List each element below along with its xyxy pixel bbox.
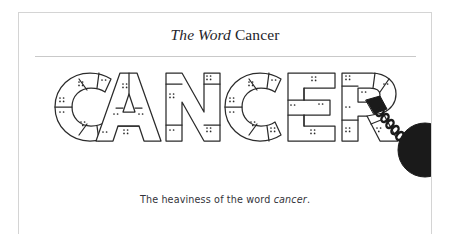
title-roman-word: Cancer bbox=[235, 26, 280, 43]
figure-caption: The heaviness of the word cancer. bbox=[19, 189, 431, 207]
page-title: The Word Cancer bbox=[19, 26, 431, 44]
letter-N bbox=[166, 73, 220, 141]
document-page: The Word Cancer bbox=[0, 0, 452, 223]
cancer-wrecking-ball-illustration bbox=[19, 62, 431, 180]
letter-E bbox=[288, 73, 335, 141]
caption-italic-word: cancer bbox=[274, 194, 307, 205]
title-divider bbox=[35, 56, 416, 57]
letter-C-2 bbox=[225, 73, 281, 141]
caption-text: The heaviness of the word cancer. bbox=[140, 194, 310, 205]
title-text: The Word Cancer bbox=[171, 26, 280, 43]
title-italic-part: The Word bbox=[171, 26, 231, 43]
wrecking-ball bbox=[398, 123, 431, 177]
caption-part-after: . bbox=[307, 194, 310, 205]
caption-part-before: The heaviness of the word bbox=[140, 194, 274, 205]
